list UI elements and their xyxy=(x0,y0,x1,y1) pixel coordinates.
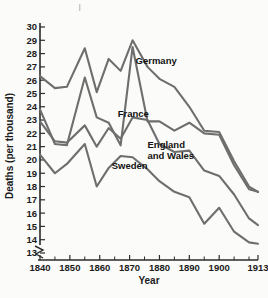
y-axis-tick-label: 20 xyxy=(26,154,37,165)
x-axis-title: Year xyxy=(138,275,159,286)
y-axis-tick-label: 28 xyxy=(26,48,37,59)
series-label-france: France xyxy=(118,108,149,119)
y-axis-tick-label: 14 xyxy=(26,234,37,245)
scan-artifact xyxy=(79,4,80,11)
y-axis-tick-label: 22 xyxy=(26,128,37,139)
series-label-england-and-wales-line2: and Wales xyxy=(148,150,195,161)
y-axis-tick-label: 23 xyxy=(26,114,37,125)
x-axis-tick-label: 1860 xyxy=(89,262,110,273)
y-axis-tick-label: 13 xyxy=(26,247,37,258)
series-label-england-and-wales: England xyxy=(148,139,186,150)
y-axis-tick-label: 24 xyxy=(26,101,37,112)
y-axis-tick-label: 26 xyxy=(26,75,37,86)
x-axis-tick-label: 1890 xyxy=(179,262,200,273)
x-axis-tick-label: 1850 xyxy=(59,262,80,273)
y-axis-tick-label: 25 xyxy=(26,88,37,99)
x-axis-tick-label: 1900 xyxy=(209,262,230,273)
x-axis-tick-label: 1840 xyxy=(29,262,50,273)
y-axis-tick-label: 27 xyxy=(26,61,37,72)
chart-figure: 1314151617181920212223242526272829301840… xyxy=(0,0,268,298)
mortality-line-chart: 1314151617181920212223242526272829301840… xyxy=(0,0,268,298)
y-axis-title: Deaths (per thousand) xyxy=(4,93,15,199)
x-axis-tick-label: 1880 xyxy=(149,262,170,273)
x-axis-tick-label: 1870 xyxy=(119,262,140,273)
x-axis-tick-label: 1913 xyxy=(247,262,268,273)
series-label-sweden: Sweden xyxy=(112,160,148,171)
y-axis-tick-label: 21 xyxy=(26,141,37,152)
y-axis-tick-label: 30 xyxy=(26,21,37,32)
y-axis-tick-label: 18 xyxy=(26,181,37,192)
y-axis-tick-label: 16 xyxy=(26,208,37,219)
y-axis-tick-label: 15 xyxy=(26,221,37,232)
y-axis-tick-label: 17 xyxy=(26,194,37,205)
y-axis-tick-label: 29 xyxy=(26,35,37,46)
series-label-germany: Germany xyxy=(136,55,178,66)
y-axis-tick-label: 19 xyxy=(26,168,37,179)
